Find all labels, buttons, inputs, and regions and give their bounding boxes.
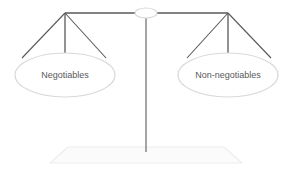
- balance-scale-illustration: Negotiables Non-negotiables: [0, 0, 292, 175]
- pivot-fulcrum: [135, 8, 157, 18]
- right-pan-label: Non-negotiables: [195, 70, 261, 80]
- left-pan-string-inner: [65, 13, 106, 58]
- right-pan-string-outer: [228, 13, 271, 58]
- left-pan-string-outer: [22, 13, 65, 58]
- balance-scale-diagram: Negotiables Non-negotiables: [0, 0, 292, 175]
- left-pan-label: Negotiables: [41, 70, 89, 80]
- right-pan-string-inner: [187, 13, 228, 58]
